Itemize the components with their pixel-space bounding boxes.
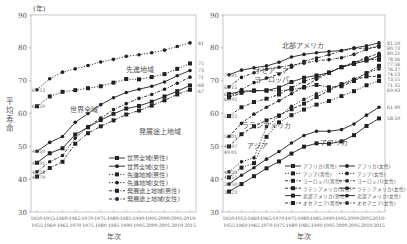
x-tick-label-bottom: 2015 — [184, 223, 196, 228]
data-point-marker — [315, 103, 319, 107]
data-point-marker — [99, 60, 103, 64]
x-tick-label-top: 1985- — [120, 216, 134, 221]
data-point-marker — [99, 124, 103, 128]
x-tick-label-top: 2010- — [372, 216, 386, 221]
data-point-marker — [188, 61, 192, 65]
data-point-marker — [352, 122, 356, 126]
data-point-marker — [252, 156, 256, 160]
data-point-marker — [175, 81, 179, 85]
data-point-marker — [163, 94, 167, 98]
data-point-marker — [277, 99, 281, 103]
region-annotation: アフリカ — [320, 139, 348, 147]
data-point-marker — [240, 105, 244, 109]
legend-item: 世界全域(女性) — [109, 163, 168, 171]
data-point-marker — [175, 45, 179, 49]
data-point-marker — [365, 71, 369, 75]
unit-label: (年) — [33, 4, 46, 13]
y-tick-label: 40 — [210, 176, 219, 184]
data-point-marker — [377, 67, 381, 71]
value-label: 40.79 — [32, 175, 45, 180]
line-chart-world-regions: 304050607080901950-19551955-19601960-196… — [0, 0, 204, 244]
data-point-marker — [290, 152, 294, 156]
data-point-marker — [163, 72, 167, 76]
value-label: 62.20 — [32, 104, 45, 109]
legend-item: 世界全域(男性) — [109, 154, 168, 162]
data-point-marker — [240, 160, 244, 164]
x-tick-label-bottom: 1955 — [223, 223, 235, 228]
legend-item: アフリカ(男性) — [285, 163, 337, 170]
data-point-marker — [124, 102, 128, 106]
x-tick-label-bottom: 1985 — [108, 223, 120, 228]
data-point-marker — [252, 89, 256, 93]
legend-label: 先進地域(男性) — [127, 171, 168, 179]
data-point-marker — [48, 160, 52, 164]
data-point-marker — [112, 108, 116, 112]
x-tick-label-top: 2010- — [183, 216, 197, 221]
x-tick-label-bottom: 1995 — [133, 223, 145, 228]
svg-text:命: 命 — [6, 123, 14, 133]
value-label: 49.01 — [224, 150, 237, 155]
data-point-marker — [290, 65, 294, 69]
chart-panel-continents: 304050607080901950-19551955-19601960-196… — [204, 0, 407, 244]
y-tick-label: 30 — [210, 209, 219, 217]
data-point-marker — [240, 68, 244, 72]
y-tick-label: 80 — [210, 44, 219, 52]
data-point-marker — [48, 166, 52, 170]
data-point-marker — [290, 86, 294, 90]
data-point-marker — [277, 114, 281, 118]
data-point-marker — [377, 41, 381, 45]
region-annotation: 世界全域 — [70, 105, 98, 114]
data-point-marker — [112, 58, 116, 62]
data-point-marker — [302, 79, 306, 83]
data-point-marker — [302, 98, 306, 102]
data-point-marker — [124, 112, 128, 116]
value-label: 42.25 — [224, 170, 237, 175]
x-tick-label-bottom: 1965 — [57, 223, 69, 228]
data-point-marker — [150, 104, 154, 108]
region-annotation: 発展途上地域 — [139, 127, 181, 136]
x-tick-label-bottom: 1985 — [298, 223, 310, 228]
data-point-marker — [99, 116, 103, 120]
x-tick-label-bottom: 1970 — [69, 223, 81, 228]
data-point-marker — [302, 59, 306, 63]
y-tick-label: 90 — [18, 12, 27, 20]
legend-item: 発展途上地域(女性) — [109, 195, 180, 203]
legend-label: 発展途上地域(男性) — [127, 187, 180, 195]
data-point-marker — [377, 116, 381, 120]
series-line — [35, 61, 192, 108]
value-label: 58.50 — [387, 116, 400, 121]
legend-label: 先進地域(女性) — [127, 179, 168, 187]
data-point-marker — [240, 76, 244, 80]
value-label: 61.90 — [387, 105, 400, 110]
data-point-marker — [302, 102, 306, 106]
legend-label: アジア(男性) — [303, 171, 332, 178]
series-line — [35, 83, 192, 164]
data-point-marker — [315, 92, 319, 96]
data-point-marker — [377, 45, 381, 49]
data-point-marker — [137, 109, 141, 113]
x-tick-label-top: 1950- — [30, 216, 44, 221]
data-point-marker — [61, 154, 65, 158]
value-label: 38.50 — [224, 182, 237, 187]
legend-label: ヨーロッパ(女性) — [357, 178, 396, 185]
legend-item: ラテンアメリカ(男性) — [285, 186, 352, 193]
data-point-marker — [73, 142, 77, 146]
line-chart-continents: 304050607080901950-19551955-19601960-196… — [204, 0, 407, 244]
data-point-marker — [377, 64, 381, 68]
x-tick-label-bottom: 1970 — [261, 223, 273, 228]
x-tick-label-bottom: 1965 — [248, 223, 260, 228]
data-point-marker — [327, 87, 331, 91]
legend-label: アフリカ(女性) — [357, 163, 391, 170]
legend-label: ラテンアメリカ(女性) — [357, 186, 406, 193]
data-point-marker — [48, 141, 52, 145]
data-point-marker — [352, 47, 356, 51]
data-point-marker — [73, 67, 77, 71]
data-point-marker — [290, 141, 294, 145]
legend-item: オセアニア(女性) — [339, 200, 396, 207]
data-point-marker — [137, 77, 141, 81]
data-point-marker — [188, 88, 192, 92]
data-point-marker — [340, 65, 344, 69]
data-point-marker — [163, 98, 167, 102]
legend-label: アジア(女性) — [357, 171, 386, 178]
y-tick-label: 40 — [18, 176, 27, 184]
